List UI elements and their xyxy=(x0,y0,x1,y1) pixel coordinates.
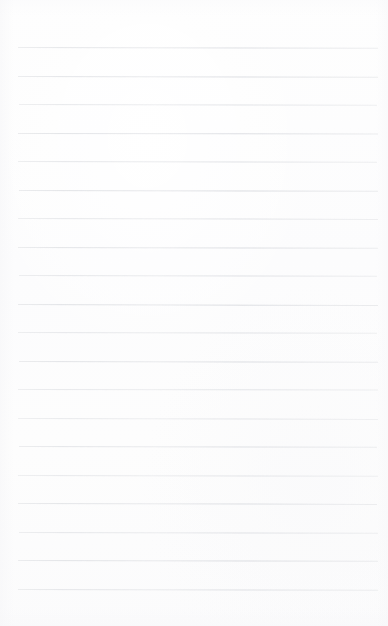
paper-writing-area[interactable] xyxy=(18,40,378,596)
lined-paper-sheet xyxy=(0,0,388,626)
